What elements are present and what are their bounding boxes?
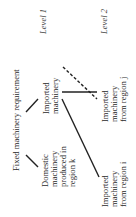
level-1-label: Level 1: [39, 9, 48, 34]
node-imported-region-i: Imported machinery from region i: [101, 162, 128, 207]
level-2-label: Level 2: [100, 9, 109, 34]
node-imported-region-j: Imported machinery from region j: [101, 77, 128, 122]
node-line: region k: [68, 146, 77, 187]
diagram-canvas: Fixed machinery requirement Level 1 Leve…: [0, 0, 136, 217]
edge-root-domestic: [26, 155, 38, 167]
node-line: from region j: [119, 77, 128, 122]
node-imported-machinery: Imported machinery: [42, 78, 60, 114]
edge-imported-dashed: [63, 67, 97, 99]
root-node-label: Fixed machinery requirement: [12, 69, 21, 171]
node-domestic-machinery: Domestic machinery produced in region k: [41, 146, 77, 187]
node-line: from region i: [119, 162, 128, 207]
edge-root-imported: [26, 99, 38, 112]
node-line: machinery: [51, 78, 60, 114]
